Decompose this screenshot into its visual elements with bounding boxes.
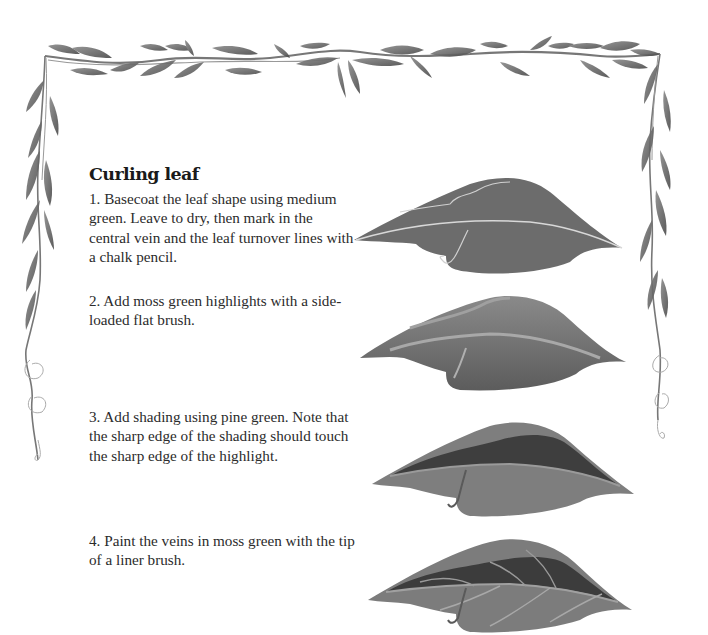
step-1-text: 1. Basecoat the leaf shape using medium …: [89, 189, 357, 267]
step-3-text: 3. Add shading using pine green. Note th…: [89, 407, 357, 465]
page-title: Curling leaf: [89, 164, 199, 184]
step-2-text: 2. Add moss green highlights with a side…: [89, 291, 357, 330]
leaf-illustration-step-3: [350, 412, 640, 518]
leaf-illustration-step-4: [350, 530, 640, 635]
step-4-text: 4. Paint the veins in moss green with th…: [89, 531, 357, 570]
leaf-illustration-step-2: [350, 290, 630, 394]
leaf-illustration-step-1: [350, 172, 630, 276]
